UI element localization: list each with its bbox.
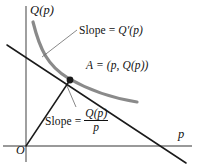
tangent-slope-label: Slope = Q′(p) [79,25,143,37]
point-a-suffix: ) [145,59,149,71]
calculus-figure: Q(p) p O Slope = Q′(p) A = (p, Q(p)) Slo… [0,0,198,166]
tangent-slope-prefix: Slope = [79,24,118,36]
point-a-prefix: A = ( [86,59,111,71]
secant-slope-fraction: Q(p) p [84,108,108,133]
secant-slope-label: Slope = Q(p) p [45,108,108,133]
secant-slope-numerator: Q(p) [84,108,108,120]
tangent-slope-value: Q′(p) [118,24,143,36]
point-a-label: A = (p, Q(p)) [86,60,149,72]
point-a-q: Q(p) [122,59,144,71]
point-a-marker [67,77,74,84]
secant-slope-denominator: p [84,122,108,134]
tangent-label-leader-line [42,30,77,57]
secant-slope-prefix: Slope = [45,115,84,127]
y-axis-label: Q(p) [30,4,54,17]
origin-label: O [16,144,25,156]
x-axis-label: p [178,128,184,141]
